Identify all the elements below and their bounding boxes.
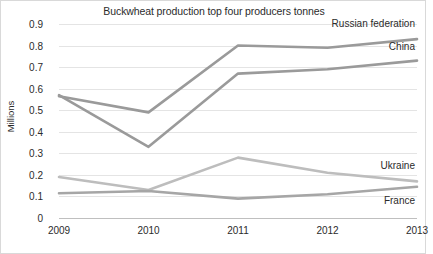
- y-axis-tick-label: 0.9: [0, 19, 43, 30]
- y-axis-tick-label: 0.3: [0, 148, 43, 159]
- plot-area: 00.10.20.30.40.50.60.70.80.9 20092010201…: [59, 24, 417, 218]
- series-line: [59, 187, 417, 199]
- series-lines: [59, 24, 417, 218]
- series-label: France: [384, 194, 415, 205]
- y-axis-tick-label: 0.7: [0, 62, 43, 73]
- chart-title: Buckwheat production top four producers …: [1, 5, 427, 17]
- x-axis-tick-label: 2011: [208, 225, 268, 236]
- y-axis-tick-label: 0.4: [0, 126, 43, 137]
- series-line: [59, 158, 417, 190]
- gridline: [59, 218, 417, 219]
- y-axis-tick-label: 0.8: [0, 40, 43, 51]
- y-axis-tick-label: 0.1: [0, 191, 43, 202]
- series-label: Russian federation: [332, 18, 415, 29]
- series-line: [59, 39, 417, 112]
- y-axis-label: Millions: [5, 87, 16, 147]
- x-axis-tick-label: 2012: [298, 225, 358, 236]
- series-label: China: [389, 40, 415, 51]
- x-axis-tick-label: 2009: [29, 225, 89, 236]
- x-axis-tick-label: 2013: [387, 225, 433, 236]
- y-axis-tick-label: 0.5: [0, 105, 43, 116]
- y-axis-tick-label: 0.6: [0, 83, 43, 94]
- x-axis-tick-label: 2010: [119, 225, 179, 236]
- series-line: [59, 61, 417, 147]
- series-label: Ukraine: [381, 160, 415, 171]
- y-axis-tick-label: 0: [0, 213, 43, 224]
- y-axis-tick-label: 0.2: [0, 169, 43, 180]
